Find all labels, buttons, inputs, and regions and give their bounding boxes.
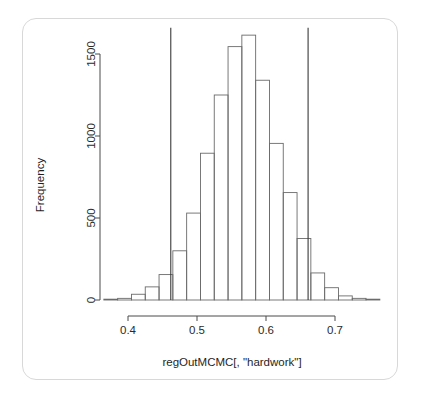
x-axis-tick-label: 0.7	[327, 324, 343, 336]
histogram-bar	[297, 239, 311, 301]
y-axis-tick-label: 1000	[85, 123, 97, 149]
histogram-bar	[325, 288, 339, 300]
histogram-bar	[145, 287, 159, 300]
y-axis-tick-label: 0	[85, 297, 97, 303]
histogram-bar	[311, 273, 325, 300]
y-axis-tick-label: 500	[85, 208, 97, 227]
x-axis: 0.40.50.60.7	[120, 316, 343, 336]
histogram-bar	[283, 193, 297, 300]
x-axis-title: regOutMCMC[, "hardwork"]	[162, 356, 301, 368]
reference-lines	[171, 28, 308, 300]
histogram-bar	[228, 47, 242, 300]
histogram-bar	[256, 80, 270, 300]
histogram-bar	[173, 251, 187, 300]
histogram-bars	[104, 35, 380, 300]
histogram-bar	[131, 294, 145, 300]
histogram-bar	[187, 213, 201, 300]
histogram-bar	[118, 298, 132, 300]
histogram-bar	[352, 298, 366, 300]
histogram-bar	[214, 95, 228, 300]
histogram-bar	[242, 35, 256, 300]
y-axis-title: Frequency	[34, 158, 46, 213]
x-axis-tick-label: 0.4	[120, 324, 137, 336]
x-axis-tick-label: 0.6	[258, 324, 274, 336]
histogram-figure: 050010001500 0.40.50.60.7 Frequency regO…	[0, 0, 422, 400]
y-axis: 050010001500	[85, 41, 100, 303]
histogram-bar	[269, 143, 283, 300]
histogram-bar	[338, 296, 352, 300]
histogram-bar	[366, 299, 380, 300]
x-axis-tick-label: 0.5	[189, 324, 205, 336]
histogram-svg: 050010001500 0.40.50.60.7 Frequency regO…	[0, 0, 422, 400]
y-axis-tick-label: 1500	[85, 41, 97, 67]
histogram-bar	[104, 299, 118, 300]
histogram-bar	[200, 153, 214, 300]
